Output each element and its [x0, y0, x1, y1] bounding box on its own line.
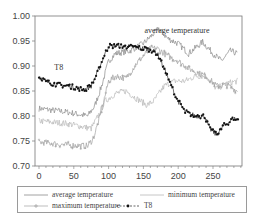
- legend-item-minimum-temperature: minimum temperature: [140, 190, 235, 199]
- y-tick-label: 0.90: [12, 61, 30, 71]
- line-chart: 0.700.750.800.850.900.951.00050100150200…: [0, 0, 265, 186]
- y-tick-label: 0.95: [12, 36, 30, 46]
- annotation-label: average temperature: [144, 26, 210, 35]
- x-tick-label: 0: [36, 171, 41, 181]
- legend-label: maximum temperature: [52, 201, 120, 210]
- axes: 0.700.750.800.850.900.951.00050100150200…: [12, 11, 242, 181]
- y-tick-label: 0.75: [12, 136, 30, 146]
- x-tick-label: 150: [136, 171, 151, 181]
- legend-item-average-temperature: average temperature: [24, 190, 113, 199]
- legend-item-maximum-temperature: maximum temperature: [24, 201, 120, 210]
- y-tick-label: 1.00: [12, 11, 30, 21]
- legend-label: minimum temperature: [168, 190, 235, 199]
- plot-frame: [35, 16, 242, 166]
- x-tick-label: 100: [101, 171, 116, 181]
- y-tick-label: 0.80: [12, 111, 30, 121]
- x-tick-label: 250: [205, 171, 220, 181]
- annotation-label: T8: [54, 63, 63, 72]
- x-tick-label: 50: [69, 171, 79, 181]
- legend-item-t8: T8: [116, 201, 152, 210]
- legend-label: average temperature: [52, 190, 113, 199]
- x-tick-label: 200: [171, 171, 186, 181]
- legend-label: T8: [144, 201, 152, 210]
- y-tick-label: 0.70: [12, 161, 30, 171]
- legend-swatch-line-icon: [140, 192, 164, 198]
- legend-swatch-plus-line-icon: [24, 203, 48, 209]
- y-tick-label: 0.85: [12, 86, 30, 96]
- legend: average temperature minimum temperature …: [17, 186, 247, 213]
- legend-swatch-dot-line-icon: [116, 203, 140, 209]
- legend-swatch-line-icon: [24, 192, 48, 198]
